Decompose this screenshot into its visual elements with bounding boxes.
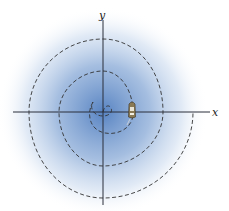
y-axis-label: y	[98, 9, 106, 22]
spiral-diagram: y x	[0, 0, 229, 211]
x-axis-label: x	[212, 106, 219, 119]
